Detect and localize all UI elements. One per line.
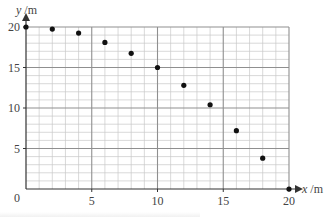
scatter-chart: 51015205101520 y /m x /m 0 [0,0,328,217]
data-point [155,65,160,70]
axes [22,13,303,193]
data-point [23,24,28,29]
data-point [50,26,55,31]
x-tick-label: 15 [217,194,229,208]
data-point [181,83,186,88]
x-axis-label: x /m [301,182,324,196]
figure-caption-cropped [0,212,200,217]
y-tick-label: 15 [8,61,20,75]
y-tick-label: 5 [14,142,20,156]
data-point [102,40,107,45]
tick-labels: 51015205101520 [8,20,295,208]
data-point [260,156,265,161]
data-point [286,186,291,191]
y-tick-label: 20 [8,20,20,34]
y-axis-label: y /m [15,3,38,17]
data-point [234,128,239,133]
x-tick-label: 20 [283,194,295,208]
data-point [129,51,134,56]
data-point [208,102,213,107]
x-tick-label: 10 [152,194,164,208]
origin-label: 0 [14,191,20,205]
y-tick-label: 10 [8,101,20,115]
x-tick-label: 5 [89,194,95,208]
data-point [76,30,81,35]
